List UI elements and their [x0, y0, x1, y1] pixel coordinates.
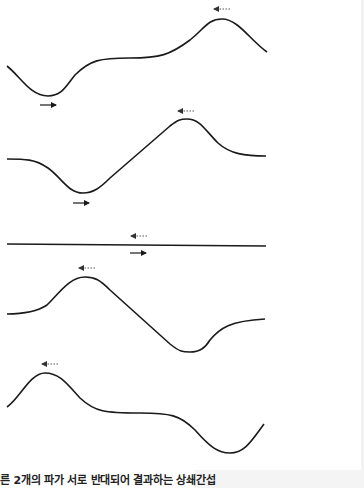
wave-4 [7, 268, 265, 352]
wave-1 [7, 9, 267, 105]
wave-curve [7, 277, 265, 352]
figure-caption: 른 2개의 파가 서로 반대되어 결과하는 상쇄간섭 [0, 471, 215, 487]
wave-curve [7, 373, 264, 453]
wave-curve [7, 119, 266, 193]
wave-2 [7, 111, 266, 203]
interference-diagram [0, 0, 364, 488]
wave-curve [7, 244, 266, 246]
wave-3-flat [7, 236, 266, 253]
wave-curve [7, 19, 267, 96]
wave-5 [7, 364, 264, 453]
